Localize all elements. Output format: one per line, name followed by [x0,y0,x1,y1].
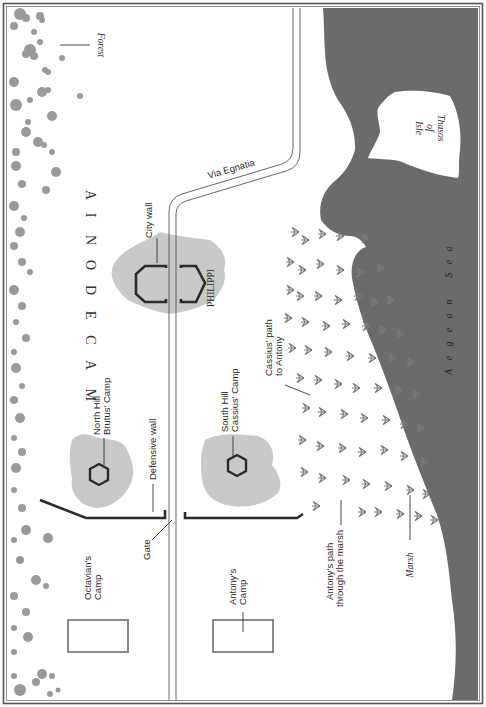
svg-text:Camp: Camp [237,580,248,605]
svg-text:n: n [443,300,454,305]
svg-text:Thasos: Thasos [436,115,446,142]
svg-text:g: g [443,342,454,347]
marsh-label: Marsh [405,552,415,578]
svg-text:e: e [443,355,454,360]
svg-text:e: e [443,259,454,264]
philippi-label: PHILIPPI [206,269,216,307]
philippi-battle-map: Isle of Thasos Forest M A C E [0,0,486,707]
svg-text:e: e [443,327,454,332]
defensive-wall-label: Defensive wall [147,419,158,480]
gate-label: Gate [141,539,152,560]
svg-text:Brutus' Camp: Brutus' Camp [101,378,112,435]
svg-text:Camp: Camp [92,575,103,600]
svg-text:through the marsh: through the marsh [334,530,345,607]
svg-text:a: a [443,314,454,319]
svg-text:I: I [83,213,98,218]
svg-text:D: D [83,285,98,295]
svg-text:N: N [83,235,98,245]
city-wall-label: City wall [143,203,154,238]
svg-text:S: S [443,273,454,278]
svg-text:E: E [83,311,98,320]
svg-text:O: O [83,260,98,270]
forest-label: Forest [96,32,106,58]
svg-text:to Antony: to Antony [273,336,284,376]
svg-text:A: A [83,360,98,371]
svg-text:a: a [443,247,454,252]
svg-text:A: A [83,190,98,201]
svg-text:Cassius' Camp: Cassius' Camp [229,368,240,432]
svg-text:A: A [443,368,454,376]
svg-text:C: C [83,335,98,344]
svg-text:Isle: Isle [414,120,424,135]
south-hill [201,434,280,506]
